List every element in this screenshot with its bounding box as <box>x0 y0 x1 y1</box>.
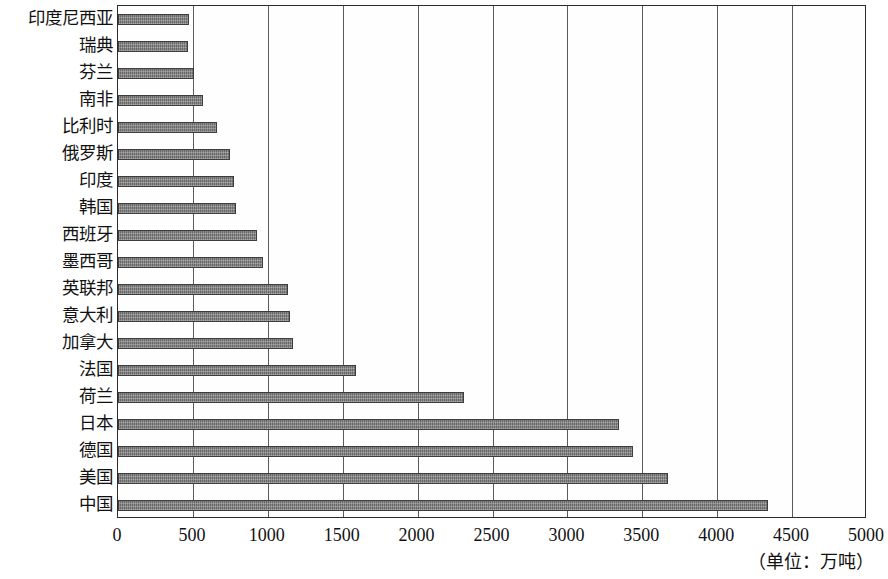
bar-row <box>118 303 867 330</box>
y-axis-label: 美国 <box>79 468 113 486</box>
bar-row <box>118 249 867 276</box>
y-axis-label: 中国 <box>79 495 113 513</box>
bar-row <box>118 438 867 465</box>
x-axis-tick-labels: 0500100015002000250030003500400045005000 <box>0 524 888 548</box>
bar <box>118 392 464 403</box>
x-axis-tick-label: 5000 <box>848 524 884 546</box>
bar <box>118 230 257 241</box>
bar <box>118 14 189 25</box>
bar-row <box>118 6 867 33</box>
y-axis-label: 韩国 <box>79 198 113 216</box>
y-axis-label: 法国 <box>79 360 113 378</box>
bar <box>118 473 668 484</box>
chart-page: 印度尼西亚瑞典芬兰南非比利时俄罗斯印度韩国西班牙墨西哥英联邦意大利加拿大法国荷兰… <box>0 0 888 579</box>
bar-row <box>118 114 867 141</box>
bar <box>118 41 188 52</box>
x-axis-tick-label: 0 <box>113 524 122 546</box>
bar-row <box>118 465 867 492</box>
bar <box>118 149 230 160</box>
bar-row <box>118 276 867 303</box>
x-axis-tick-label: 3500 <box>623 524 659 546</box>
y-axis-label: 俄罗斯 <box>62 144 113 162</box>
bar-row <box>118 411 867 438</box>
bar-row <box>118 330 867 357</box>
bar <box>118 311 290 322</box>
x-axis-tick-label: 500 <box>178 524 205 546</box>
y-axis-label: 南非 <box>79 90 113 108</box>
y-axis-label: 比利时 <box>62 117 113 135</box>
x-axis-tick-label: 1000 <box>249 524 285 546</box>
bar <box>118 203 236 214</box>
bar <box>118 284 288 295</box>
bar <box>118 122 217 133</box>
y-axis-label: 瑞典 <box>79 36 113 54</box>
x-axis-tick-label: 2500 <box>474 524 510 546</box>
bar <box>118 500 768 511</box>
bar-row <box>118 492 867 519</box>
bar <box>118 446 633 457</box>
bar-row <box>118 60 867 87</box>
unit-caption: （单位：万吨） <box>748 551 874 573</box>
bar-row <box>118 384 867 411</box>
y-axis-label: 西班牙 <box>62 225 113 243</box>
y-axis-category-labels: 印度尼西亚瑞典芬兰南非比利时俄罗斯印度韩国西班牙墨西哥英联邦意大利加拿大法国荷兰… <box>0 5 113 518</box>
y-axis-label: 德国 <box>79 441 113 459</box>
x-axis-tick-label: 1500 <box>324 524 360 546</box>
bar <box>118 95 203 106</box>
bar <box>118 257 263 268</box>
x-axis-tick-label: 4500 <box>773 524 809 546</box>
y-axis-label: 芬兰 <box>79 63 113 81</box>
bar <box>118 419 619 430</box>
bar-row <box>118 141 867 168</box>
y-axis-label: 荷兰 <box>79 387 113 405</box>
y-axis-label: 英联邦 <box>62 279 113 297</box>
bar-row <box>118 222 867 249</box>
bar-row <box>118 168 867 195</box>
x-axis-tick-label: 4000 <box>698 524 734 546</box>
y-axis-label: 加拿大 <box>62 333 113 351</box>
bar <box>118 176 234 187</box>
bar <box>118 68 194 79</box>
y-axis-label: 日本 <box>79 414 113 432</box>
bar-row <box>118 87 867 114</box>
y-axis-label: 墨西哥 <box>62 252 113 270</box>
y-axis-label: 印度 <box>79 171 113 189</box>
x-axis-tick-label: 2000 <box>399 524 435 546</box>
bar <box>118 338 293 349</box>
bar-row <box>118 33 867 60</box>
plot-area <box>117 5 866 518</box>
y-axis-label: 印度尼西亚 <box>28 9 113 27</box>
y-axis-label: 意大利 <box>62 306 113 324</box>
x-axis-tick-label: 3000 <box>548 524 584 546</box>
bar <box>118 365 356 376</box>
bar-row <box>118 195 867 222</box>
bar-row <box>118 357 867 384</box>
